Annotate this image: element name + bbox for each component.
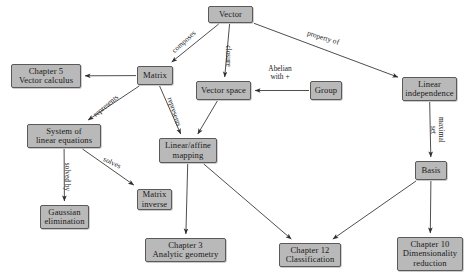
edge-label-system-to-matrix-inverse: solves bbox=[102, 155, 122, 170]
node-chapter5[interactable]: Chapter 5 Vector calculus bbox=[11, 64, 81, 88]
node-label: Basis bbox=[419, 166, 442, 175]
edge-label-vector-to-vector-space: closure bbox=[224, 45, 232, 66]
node-label: Chapter 12 Classification bbox=[284, 246, 337, 265]
node-system-linear-eq[interactable]: System of linear equations bbox=[27, 124, 101, 148]
node-label: Vector space bbox=[199, 86, 248, 95]
node-linear-independence[interactable]: Linear independence bbox=[402, 77, 457, 101]
node-label: Matrix inverse bbox=[140, 190, 170, 209]
edge-basis-to-chapter10 bbox=[430, 181, 431, 233]
edge-basis-to-chapter12 bbox=[333, 181, 416, 239]
node-label: Chapter 10 Dimensionality reduction bbox=[401, 240, 459, 268]
node-group[interactable]: Group bbox=[310, 81, 342, 100]
node-chapter10[interactable]: Chapter 10 Dimensionality reduction bbox=[397, 237, 463, 271]
edge-label-matrix-to-system-linear-eq: represents bbox=[92, 93, 120, 118]
node-gaussian-elimination[interactable]: Gaussian elimination bbox=[40, 205, 89, 229]
edge-system-to-matrix-inverse bbox=[83, 149, 134, 185]
edge-label-group-to-vector-space: Abelian with + bbox=[268, 65, 291, 81]
edge-label-vector-to-matrix: composes bbox=[170, 29, 197, 55]
node-chapter12[interactable]: Chapter 12 Classification bbox=[279, 243, 341, 267]
node-label: Group bbox=[313, 86, 339, 95]
edge-label-system-to-gaussian-elimination: solved by bbox=[63, 163, 71, 192]
node-label: Linear independence bbox=[403, 80, 455, 99]
node-label: Linear/affine mapping bbox=[163, 141, 213, 160]
node-label: Vector bbox=[217, 10, 244, 19]
node-matrix[interactable]: Matrix bbox=[137, 66, 173, 85]
edge-label-matrix-to-linear-affine: represents bbox=[165, 96, 182, 127]
edge-linear-affine-to-chapter12 bbox=[204, 164, 291, 239]
edge-vector-space-to-linear-affine bbox=[198, 101, 218, 134]
node-label: Matrix bbox=[141, 71, 169, 80]
node-basis[interactable]: Basis bbox=[415, 161, 447, 180]
node-vector-space[interactable]: Vector space bbox=[196, 81, 251, 100]
node-matrix-inverse[interactable]: Matrix inverse bbox=[137, 189, 172, 210]
concept-map-diagram: VectorMatrixChapter 5 Vector calculusVec… bbox=[0, 0, 470, 279]
node-linear-affine[interactable]: Linear/affine mapping bbox=[159, 138, 217, 163]
node-chapter3[interactable]: Chapter 3 Analytic geometry bbox=[145, 238, 226, 262]
edge-label-vector-to-linear-independence: property of bbox=[306, 29, 340, 46]
edge-linear-affine-to-chapter3 bbox=[186, 164, 188, 234]
node-vector[interactable]: Vector bbox=[208, 6, 253, 23]
node-label: System of linear equations bbox=[34, 127, 94, 146]
node-label: Gaussian elimination bbox=[42, 208, 86, 227]
node-label: Chapter 3 Analytic geometry bbox=[151, 241, 221, 260]
node-label: Chapter 5 Vector calculus bbox=[17, 67, 75, 86]
edge-label-linear-independence-to-basis: maximal set bbox=[429, 114, 445, 147]
